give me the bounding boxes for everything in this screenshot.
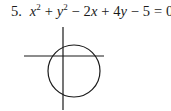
circle-curve: [48, 45, 100, 97]
circle-graph: [0, 0, 171, 111]
